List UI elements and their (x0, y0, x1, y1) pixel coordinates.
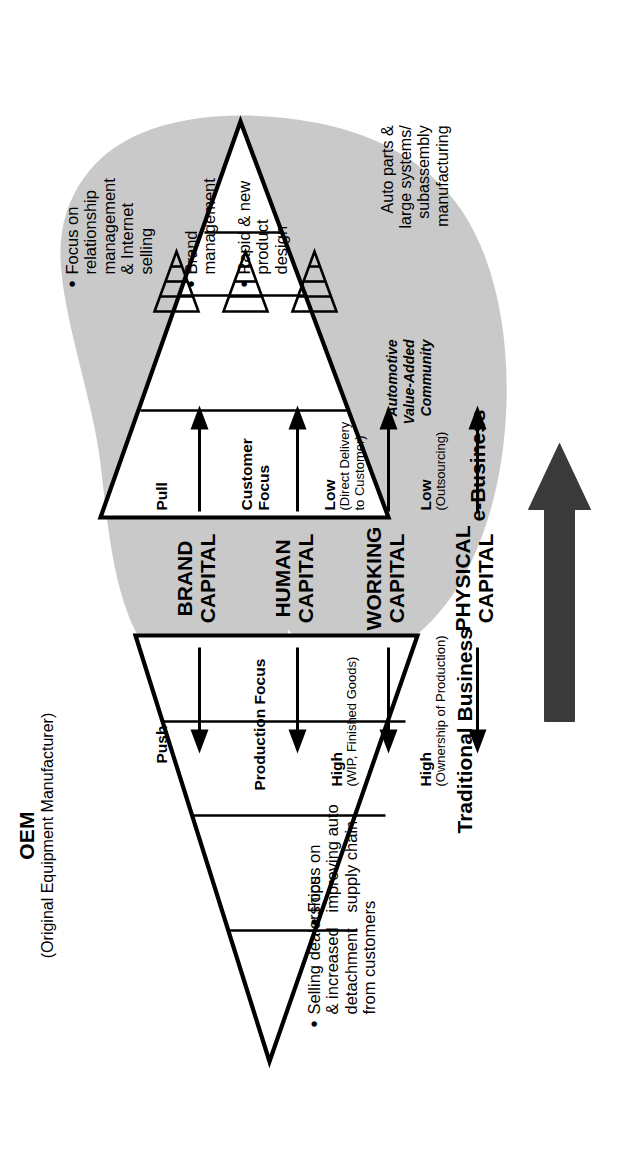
capital-row-brand-title: BRAND CAPITAL (172, 523, 218, 633)
vbo-bullet-1-text: Focus on relationship management & Inter… (61, 177, 155, 275)
capital-row-human-title: HUMAN CAPITAL (270, 523, 316, 633)
physical-right-arrow-icon (464, 403, 490, 513)
human-left-arrow-icon (284, 645, 310, 755)
physical-right-note: (Outsourcing) (433, 431, 448, 510)
capital-row-physical-title: PHYSICAL CAPITAL (450, 516, 496, 640)
oem-bullet-1-dot: • (303, 1015, 379, 1027)
oem-bullet-2-dot: • (303, 913, 360, 925)
working-left-value: High (327, 656, 344, 786)
brand-right-arrow-icon (186, 403, 212, 513)
brand-left-arrow-icon (186, 645, 212, 755)
human-left-value: Production Focus (250, 658, 267, 790)
oem-acronym: OEM (14, 625, 38, 1045)
physical-left-value-group: High (Ownership of Production) (416, 635, 448, 786)
brand-left-value: Push (152, 725, 169, 763)
working-right-value: Low (320, 421, 337, 510)
working-left-value-group: High (WIP, Finished Goods) (327, 656, 359, 786)
oem-header: OEM (Original Equipment Manufacturer) (14, 625, 56, 1045)
physical-left-arrow-icon (464, 645, 490, 755)
physical-left-note: (Ownership of Production) (433, 635, 448, 786)
capital-row-working-title: WORKING CAPITAL (361, 518, 407, 638)
oem-bullet-2-text: Focus on improving auto supply chain (303, 803, 360, 913)
vbo-bullet-1: • Focus on relationship management & Int… (61, 177, 155, 287)
physical-right-value-group: Low (Outsourcing) (416, 431, 448, 510)
oem-bullet-2: • Focus on improving auto supply chain (303, 803, 360, 925)
oem-expansion: (Original Equipment Manufacturer) (38, 625, 56, 1045)
community-funnel-icons (150, 243, 340, 315)
physical-left-value: High (416, 635, 433, 786)
transition-arrow-icon (528, 441, 590, 721)
working-right-value-group: Low (Direct Delivery to Customer) (320, 421, 366, 510)
working-right-note-line1: (Direct Delivery (337, 421, 352, 510)
human-right-arrow-icon (284, 403, 310, 513)
diagram-canvas: OEM (Original Equipment Manufacturer) • … (0, 0, 633, 1163)
working-left-note: (WIP, Finished Goods) (344, 656, 359, 786)
community-caption: Auto parts & large systems/ subassembly … (378, 125, 451, 228)
vbo-bullet-1-dot: • (61, 275, 155, 287)
working-right-arrow-icon (375, 403, 401, 513)
brand-right-value: Pull (152, 482, 169, 510)
physical-right-value: Low (416, 431, 433, 510)
working-right-note-line2: to Customer) (352, 421, 367, 510)
working-left-arrow-icon (375, 645, 401, 755)
human-right-value: Customer Focus (237, 438, 272, 510)
